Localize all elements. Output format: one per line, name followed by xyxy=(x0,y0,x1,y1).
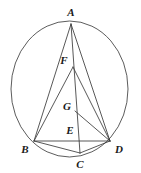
segment-AD xyxy=(71,24,110,141)
circumscribed-circle xyxy=(11,21,128,157)
segment-BC xyxy=(34,141,80,153)
point-label-A: A xyxy=(67,7,74,18)
point-label-F: F xyxy=(60,55,67,66)
point-label-C: C xyxy=(76,159,83,170)
segment-CD xyxy=(80,141,110,153)
point-label-E: E xyxy=(66,125,73,136)
point-label-D: D xyxy=(115,144,123,155)
geometry-figure: A B C D E F G xyxy=(0,0,141,173)
point-label-G: G xyxy=(63,101,71,112)
point-label-B: B xyxy=(21,144,28,155)
